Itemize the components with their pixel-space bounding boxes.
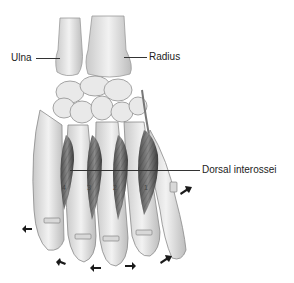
arrow-middle-right-icon: [125, 262, 136, 270]
arrow-middle-left-icon: [90, 264, 101, 272]
arrow-index-icon: [160, 255, 172, 264]
muscle-number-4: 4: [62, 184, 66, 191]
dorsal-interossei-label: Dorsal interossei: [202, 164, 276, 176]
metacarpal-bones: [33, 110, 186, 266]
muscle-number-3: 3: [87, 184, 91, 191]
arrow-thumb-icon: [180, 186, 192, 195]
muscle-number-1: 1: [144, 184, 148, 191]
radius-bone: [86, 16, 131, 77]
muscle-number-2: 2: [113, 184, 117, 191]
little-finger: [33, 110, 64, 250]
ulna-bone: [56, 18, 83, 76]
radius-label: Radius: [149, 51, 180, 63]
arrow-ring-icon: [56, 258, 66, 266]
dorsal-interossei-leader-line: [70, 170, 200, 171]
arrow-little-side-icon: [22, 225, 32, 233]
ulna-leader-line: [36, 58, 60, 59]
carpal-bones: [53, 76, 147, 123]
hand-anatomy-illustration: 4 3 2 1: [0, 0, 294, 283]
ulna-label: Ulna: [11, 52, 32, 64]
radius-leader-line: [124, 57, 147, 58]
